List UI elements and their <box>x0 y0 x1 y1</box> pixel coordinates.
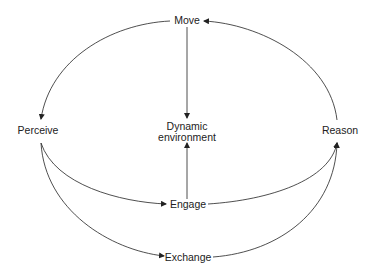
node-dynamic-line2: environment <box>158 131 216 143</box>
diagram-canvas: Move Perceive Reason Dynamic environment… <box>0 0 377 275</box>
edge-exchange-to-reason <box>213 143 337 257</box>
node-exchange: Exchange <box>165 251 212 263</box>
node-move: Move <box>174 14 200 26</box>
node-reason: Reason <box>322 124 358 136</box>
edge-reason-to-move <box>204 21 337 120</box>
node-perceive: Perceive <box>18 124 59 136</box>
edge-move-to-perceive <box>41 21 170 119</box>
edge-perceive-to-exchange <box>41 143 164 256</box>
node-engage: Engage <box>170 198 206 210</box>
diagram-svg: Move Perceive Reason Dynamic environment… <box>0 0 377 275</box>
edge-perceive-to-engage <box>41 143 166 204</box>
edge-engage-to-reason <box>208 143 337 204</box>
